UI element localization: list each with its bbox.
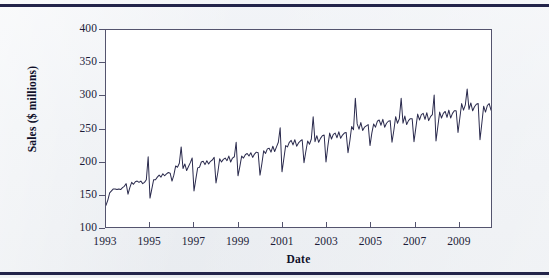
x-axis-tick [326,222,327,228]
x-axis-tick-label-text: 2003 [314,235,337,247]
series-line-svg [106,30,491,227]
x-axis-tick [370,222,371,228]
y-axis-tick [99,228,105,229]
top-horizontal-rule [0,4,549,7]
x-axis-tick-label-text: 1995 [138,235,161,247]
y-axis-tick-label-text: 200 [63,156,97,168]
y-axis-tick-label-text: 150 [63,189,97,201]
x-axis-tick-label: 2009 [439,231,479,249]
figure-page: Sales ($ millions) 100150200250300350400… [0,0,549,278]
x-axis-tick-label: 2003 [306,231,346,249]
y-axis-tick-label: 150 [59,189,97,201]
y-axis-title: Sales ($ millions) [26,44,38,174]
x-axis-tick [149,222,150,228]
x-axis-tick-label-text: 2005 [359,235,382,247]
y-axis-tick-label-text: 250 [63,123,97,135]
x-axis-tick-label-text: 2009 [447,235,470,247]
plot-area [105,29,492,228]
x-axis-tick [459,222,460,228]
x-axis-tick-label: 1993 [85,231,125,249]
x-axis-tick-label: 1999 [218,231,258,249]
y-axis-tick-label-text: 300 [63,89,97,101]
y-axis-tick-label: 250 [59,123,97,135]
x-axis-tick-label: 1995 [129,231,169,249]
sales-series-line [106,34,491,205]
x-axis-tick [282,222,283,228]
x-axis-tick-label-text: 1999 [226,235,249,247]
x-axis-tick-label: 2001 [262,231,302,249]
y-axis-tick-label: 300 [59,89,97,101]
bottom-horizontal-rule [0,272,549,275]
x-axis-tick-label-text: 2001 [270,235,293,247]
x-axis-tick-label: 2005 [350,231,390,249]
y-axis-tick-label: 350 [59,56,97,68]
x-axis-tick [415,222,416,228]
x-axis-tick [193,222,194,228]
x-axis-tick-label: 2007 [395,231,435,249]
x-axis-tick-label: 1997 [173,231,213,249]
x-axis-tick [105,222,106,228]
x-axis-tick-label-text: 1997 [182,235,205,247]
x-axis-tick [238,222,239,228]
x-axis-tick-label-text: 1993 [93,235,116,247]
x-axis-tick-label-text: 2007 [403,235,426,247]
y-axis-tick-label-text: 350 [63,56,97,68]
x-axis-title: Date [105,253,492,265]
y-axis-tick-label: 400 [59,23,97,35]
y-axis-tick-label-text: 400 [63,23,97,35]
time-series-chart: Sales ($ millions) 100150200250300350400… [0,8,549,270]
y-axis-tick-label: 200 [59,156,97,168]
